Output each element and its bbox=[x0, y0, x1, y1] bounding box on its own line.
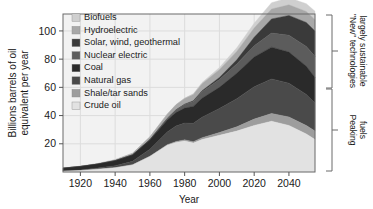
x-tick-label: 1920 bbox=[69, 177, 93, 189]
y-tick-label: 40 bbox=[44, 109, 56, 121]
upper-bracket-label-line-1: "New" technologies bbox=[348, 14, 358, 88]
legend-label: Biofuels bbox=[84, 12, 117, 22]
y-tick-label: 20 bbox=[44, 137, 56, 149]
x-tick-label: 1960 bbox=[138, 177, 162, 189]
legend-swatch bbox=[72, 52, 80, 60]
y-tick-label: 80 bbox=[44, 53, 56, 65]
upper-bracket-label: "New" technologies largely sustainable bbox=[348, 14, 368, 88]
y-tick-label: 60 bbox=[44, 81, 56, 93]
y-axis-title-line-1: Billions barrels of oil bbox=[7, 49, 18, 138]
lower-bracket-label-line-2: fuels bbox=[358, 121, 368, 139]
x-tick-label: 1980 bbox=[173, 177, 197, 189]
legend-label: Hydroelectric bbox=[84, 25, 138, 35]
legend-label: Shale/tar sands bbox=[84, 88, 148, 98]
upper-bracket-label-line-2: largely sustainable bbox=[358, 15, 368, 86]
legend-swatch bbox=[72, 26, 80, 34]
x-tick-label: 1940 bbox=[103, 177, 127, 189]
legend-label: Nuclear electric bbox=[84, 50, 148, 60]
legend-label: Solar, wind, geothermal bbox=[84, 37, 180, 47]
x-tick-label: 2040 bbox=[277, 177, 301, 189]
legend-label: Crude oil bbox=[84, 100, 121, 110]
lower-bracket-label-line-1: Peaking bbox=[348, 114, 358, 145]
legend-swatch bbox=[72, 14, 80, 22]
legend-swatch bbox=[72, 102, 80, 110]
legend-swatch bbox=[72, 39, 80, 47]
legend-label: Coal bbox=[84, 62, 103, 72]
x-tick-label: 2020 bbox=[242, 177, 266, 189]
legend-swatch bbox=[72, 89, 80, 97]
x-axis-title: Year bbox=[179, 194, 200, 205]
chart-figure: 20406080100 1920194019601980200020202040… bbox=[0, 0, 373, 209]
legend-swatch bbox=[72, 77, 80, 85]
y-tick-label: 100 bbox=[38, 25, 56, 37]
legend-label: Natural gas bbox=[84, 75, 131, 85]
stacked-area-chart: 20406080100 1920194019601980200020202040… bbox=[0, 0, 373, 209]
x-tick-label: 2000 bbox=[208, 177, 232, 189]
legend-swatch bbox=[72, 64, 80, 72]
y-axis-title-line-2: equivalent per year bbox=[19, 50, 30, 136]
y-axis-title: Billions barrels of oil equivalent per y… bbox=[7, 49, 30, 138]
